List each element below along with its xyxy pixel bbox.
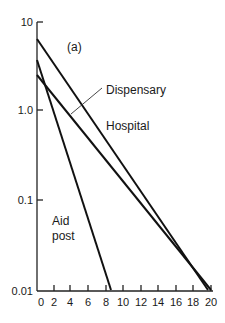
- series-hospital-line: [37, 75, 211, 290]
- y-tick-10: 10: [21, 16, 33, 28]
- x-tick: 20: [205, 296, 217, 308]
- y-tick-0.01: 0.01: [12, 285, 33, 297]
- x-tick: 10: [117, 296, 129, 308]
- x-tick: 0: [38, 296, 44, 308]
- x-tick: 12: [135, 296, 147, 308]
- series-dispensary-line: [37, 39, 208, 290]
- y-tick-0.1: 0.1: [18, 194, 33, 206]
- y-tick-1: 1.0: [18, 104, 33, 116]
- x-tick: 14: [152, 296, 164, 308]
- x-tick: 2: [51, 296, 57, 308]
- hospital-label: Hospital: [106, 119, 149, 133]
- panel-label: (a): [67, 40, 82, 54]
- x-tick: 16: [170, 296, 182, 308]
- x-tick: 6: [85, 296, 91, 308]
- x-axis: [37, 285, 213, 291]
- chart: 10 1.0 0.1 0.01 0 2 4 6 8 10 12 14 16 18…: [0, 0, 225, 323]
- x-tick: 4: [67, 296, 73, 308]
- x-tick: 8: [103, 296, 109, 308]
- dispensary-label: Dispensary: [106, 83, 166, 97]
- aid-post-label-line1: Aid: [52, 214, 69, 228]
- aid-post-label-line2: post: [52, 229, 75, 243]
- x-tick: 18: [187, 296, 199, 308]
